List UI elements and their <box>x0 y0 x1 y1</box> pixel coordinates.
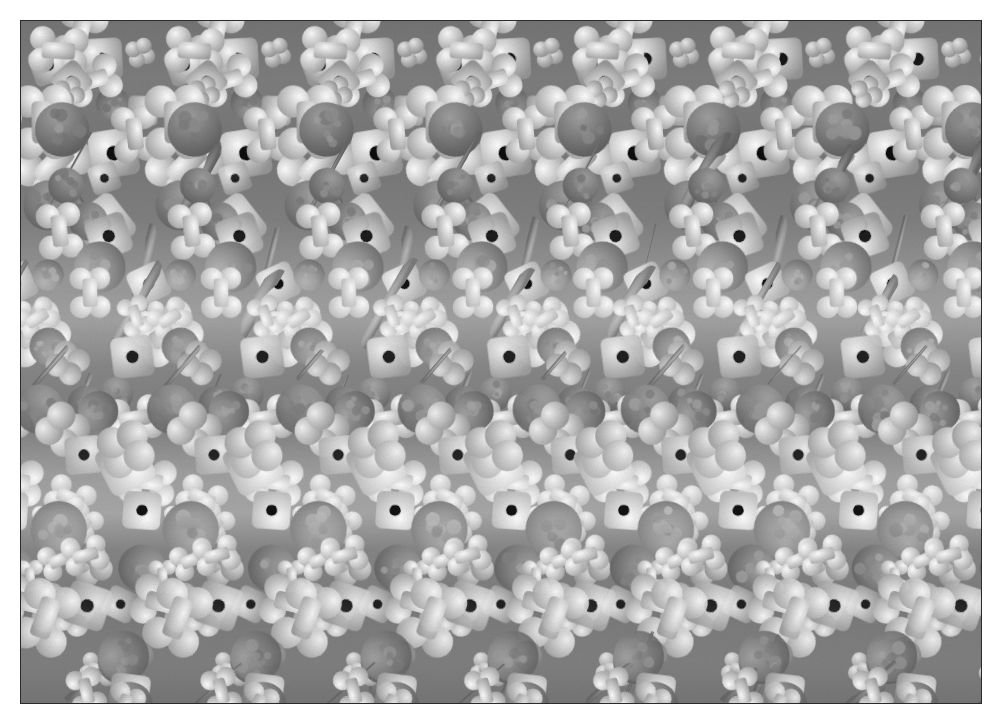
stereogram-motif-square-hole <box>375 490 415 530</box>
stereogram-motif-square-hole <box>491 490 531 530</box>
stereogram-motif-square-hole <box>604 490 644 530</box>
stereogram-motif-square-hole <box>840 334 886 380</box>
stereogram-motif-square-hole <box>239 334 285 380</box>
stereogram-canvas <box>21 21 981 703</box>
stereogram-motif-square-hole <box>486 334 532 380</box>
stereogram-plate <box>21 21 981 703</box>
stereogram-motif-square-hole <box>718 490 758 530</box>
stereogram-motif-square-hole <box>716 334 762 380</box>
stereogram-motif-square-hole <box>600 334 646 380</box>
stereogram-page <box>0 0 1003 725</box>
stereogram-motif-square-hole <box>109 334 155 380</box>
stereogram-motif-square-hole <box>838 490 878 530</box>
stereogram-motif-square-hole <box>966 490 981 530</box>
stereogram-motif-square-hole <box>122 490 162 530</box>
stereogram-motif-square-hole <box>252 490 292 530</box>
stereogram-motif-square-hole <box>366 334 412 380</box>
